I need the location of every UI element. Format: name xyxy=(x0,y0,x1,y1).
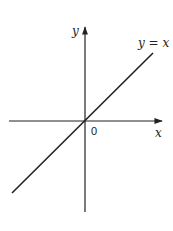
origin-label: 0 xyxy=(91,125,97,137)
x-axis-label: x xyxy=(155,126,162,140)
chart-canvas: y y = x 0 x xyxy=(0,0,173,231)
line-y-equals-x xyxy=(12,53,153,193)
y-axis-label: y xyxy=(71,24,79,38)
line-label: y = x xyxy=(137,36,169,50)
